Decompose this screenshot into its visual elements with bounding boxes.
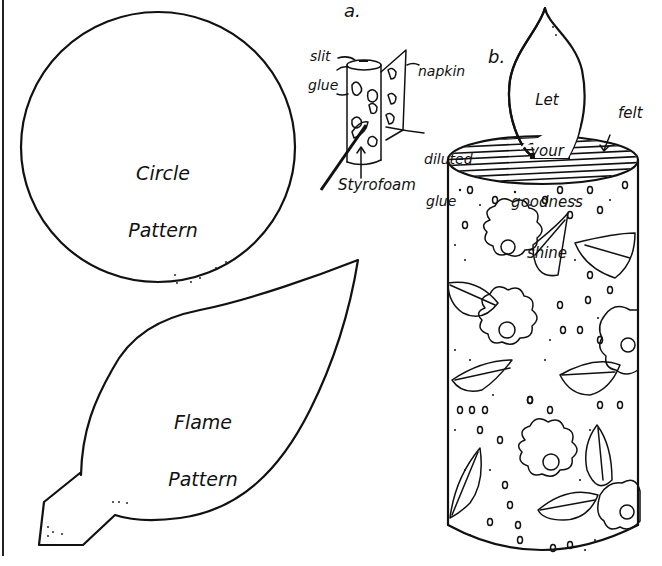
flame-dots <box>47 501 128 537</box>
label-diluted-glue: diluted glue <box>424 124 473 222</box>
label-diluted-line1: diluted <box>424 152 473 166</box>
circle-pattern-label-line1: Circle <box>118 164 208 183</box>
flame-pattern-label-line1: Flame <box>158 413 248 432</box>
label-felt: felt <box>618 106 643 121</box>
flame-message-line-1: Let <box>505 92 589 109</box>
figure-b-marker: b. <box>488 48 505 66</box>
figure-a-drawing <box>321 50 424 190</box>
circle-pattern-label: Circle Pattern <box>118 126 208 259</box>
figure-a-marker: a. <box>344 2 361 20</box>
flame-message-line-2: your <box>505 143 589 160</box>
flame-message-line-4: shine <box>505 245 589 262</box>
label-napkin: napkin <box>418 64 465 78</box>
label-styrofoam: Styrofoam <box>338 178 416 193</box>
flame-message-line-3: goodness <box>505 194 589 211</box>
flame-pattern-label-line2: Pattern <box>158 470 248 489</box>
flame-pattern-label: Flame Pattern <box>158 375 248 508</box>
circle-pattern-label-line2: Pattern <box>118 221 208 240</box>
flame-message: Let your goodness shine <box>505 58 589 279</box>
label-glue: glue <box>308 78 338 92</box>
label-diluted-line2: glue <box>424 194 473 208</box>
label-slit: slit <box>310 49 331 63</box>
